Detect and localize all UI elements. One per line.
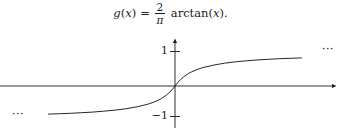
continuation-dots-left: ··· [12, 109, 24, 120]
y-tick-label-negative-one: −1 [134, 110, 168, 121]
y-tick-label-positive-one: 1 [140, 45, 168, 56]
continuation-dots-right: ··· [322, 44, 334, 55]
plot-area [0, 0, 341, 133]
arctan-figure: g(x) = 2 π arctan(x). [0, 0, 341, 133]
